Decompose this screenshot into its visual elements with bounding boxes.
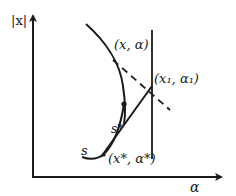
label-s-star: s* — [111, 123, 123, 135]
x-star-point — [102, 153, 105, 156]
label-x1-alpha1: (x₁, α₁) — [154, 72, 199, 85]
s-star-point — [121, 101, 126, 106]
y-axis-label: |x| — [11, 14, 27, 27]
diagram-canvas: |x| α (x, α) (x₁, α₁) (x*, α*) s* s — [0, 0, 236, 196]
label-x-star: (x*, α*) — [108, 152, 156, 165]
label-x-alpha: (x, α) — [114, 38, 149, 51]
x-axis-label: α — [190, 180, 199, 194]
tangent-branch — [101, 86, 152, 157]
label-s: s — [81, 144, 88, 157]
diagram-svg — [0, 0, 236, 196]
